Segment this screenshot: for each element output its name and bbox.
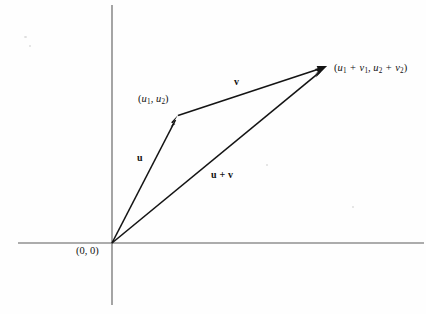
vector-u-shaft [112,120,176,243]
vector-addition-figure: (0, 0) (u1, u2) (u1 + v1, u2 + v2) u v u… [0,0,426,314]
u-point-var1: u [142,93,147,104]
sum-point-var1: u [338,62,343,73]
vector-u-arrowhead [171,115,178,127]
sum-point-close-paren: ) [404,62,408,73]
sum-point-op2: + [382,62,395,73]
sum-point-sub2: 1 [364,67,368,75]
sum-point-sub3: 2 [378,67,382,75]
vector-sum-label: u + v [211,170,233,180]
vector-v-shaft [178,69,321,116]
vector-u-label: u [137,153,143,163]
vector-v-label: v [234,77,239,87]
figure-canvas [0,0,426,314]
sum-point-sub4: 2 [400,67,404,75]
sum-point-op1: + [347,62,360,73]
u-point-sub2: 2 [161,98,165,106]
u-point-sub1: 1 [147,98,151,106]
sum-point-label: (u1 + v1, u2 + v2) [334,63,407,74]
u-point-label: (u1, u2) [138,94,169,105]
origin-label: (0, 0) [76,246,99,257]
u-point-close-paren: ) [165,93,169,104]
sum-point-sub1: 1 [343,67,347,75]
